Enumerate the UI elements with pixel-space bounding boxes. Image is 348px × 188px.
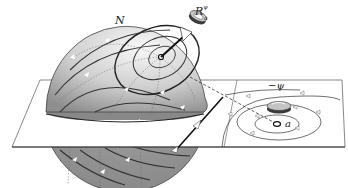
point-a-label: a (285, 119, 291, 129)
north-label: N (115, 15, 125, 26)
rotation-label: Rψa (195, 5, 212, 19)
neg-psi-label: −ψ (268, 81, 284, 91)
rotation-label-sup: ψ (203, 3, 208, 10)
diagram-canvas (0, 0, 348, 188)
point-a-icon (274, 122, 281, 127)
rotation-disc-icon (267, 102, 291, 114)
rotation-label-sub: a (204, 14, 208, 21)
